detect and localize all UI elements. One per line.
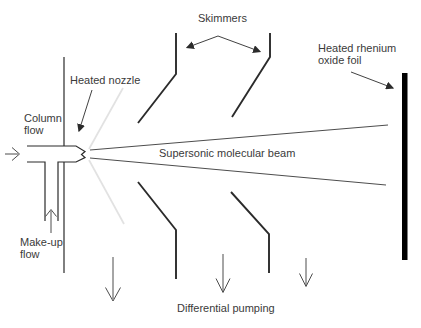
pump-arrow-2 [216, 254, 230, 293]
differential-pumping-label: Differential pumping [177, 302, 275, 314]
nozzle-tube-fill [27, 146, 85, 221]
rhenium-foil-label-line1: Heated rhenium [318, 42, 396, 54]
skimmers-label: Skimmers [198, 12, 247, 24]
column-flow-label-line1: Column [24, 112, 62, 124]
heated-nozzle-label: Heated nozzle [70, 74, 140, 86]
makeup-flow-label-line2: flow [20, 248, 63, 260]
pump-arrow-3 [300, 258, 313, 287]
nozzle-pointer-arrow [79, 90, 92, 131]
beam-boundary-lower [90, 158, 386, 185]
pump-arrow-1 [106, 257, 121, 301]
expansion-line-upper [89, 88, 123, 149]
makeup-tube-outline [27, 162, 45, 221]
rhenium-foil-label: Heated rhenium oxide foil [318, 42, 396, 66]
skimmer-lower-right [231, 192, 269, 273]
rhenium-foil-bar [402, 73, 408, 260]
foil-pointer-arrow [351, 72, 393, 88]
rhenium-foil-label-line2: oxide foil [318, 54, 396, 66]
makeup-flow-label: Make-up flow [20, 236, 63, 260]
expansion-line-lower [89, 160, 124, 224]
supersonic-beam-label: Supersonic molecular beam [159, 147, 295, 159]
column-flow-label-line2: flow [24, 124, 62, 136]
skimmer-lower-left [138, 182, 176, 279]
column-flow-label: Column flow [24, 112, 62, 136]
skimmer-upper-left [138, 33, 176, 123]
skimmers-pointer-left [187, 36, 218, 48]
diagram-canvas: Skimmers Heated rhenium oxide foil Heate… [0, 0, 421, 328]
skimmer-upper-right [232, 33, 270, 117]
column-flow-arrow-icon [5, 148, 20, 161]
makeup-flow-label-line1: Make-up [20, 236, 63, 248]
skimmers-pointer-right [218, 36, 260, 52]
